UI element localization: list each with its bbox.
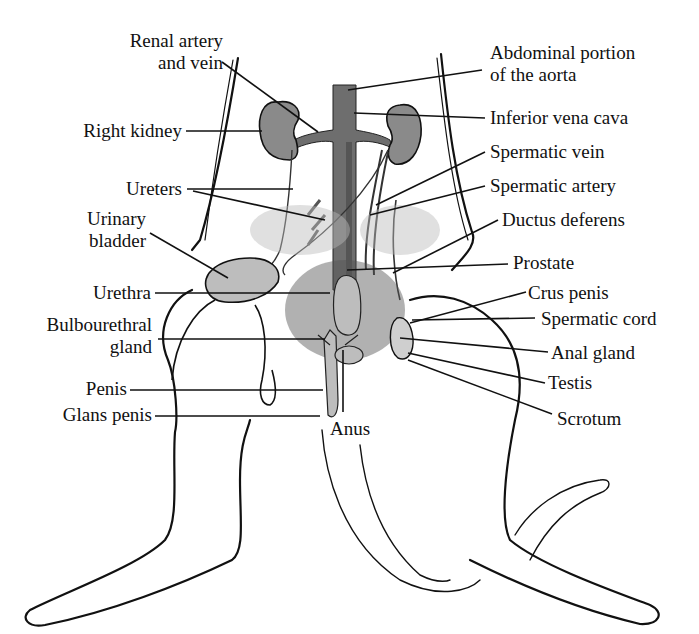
label-line: Bulbourethral — [46, 314, 152, 336]
label-glans-penis: Glans penis — [63, 404, 152, 426]
label-line: Right kidney — [83, 120, 182, 142]
label-ureters: Ureters — [126, 178, 182, 200]
label-inferior-vena-cava: Inferior vena cava — [490, 107, 628, 129]
label-line: Inferior vena cava — [490, 107, 628, 129]
label-abdominal-aorta: Abdominal portion of the aorta — [490, 42, 635, 86]
label-line: Renal artery — [130, 30, 223, 52]
label-anus: Anus — [330, 418, 370, 440]
label-line: and vein — [130, 52, 223, 74]
label-line: of the aorta — [490, 64, 635, 86]
label-spermatic-artery: Spermatic artery — [490, 175, 616, 197]
label-bulbourethral-gland: Bulbourethral gland — [46, 314, 152, 358]
label-prostate: Prostate — [513, 252, 574, 274]
label-renal-artery-vein: Renal artery and vein — [130, 30, 223, 74]
label-line: Penis — [86, 378, 127, 400]
label-urinary-bladder: Urinary bladder — [87, 208, 146, 252]
label-line: Anal gland — [551, 342, 635, 364]
anus-shape — [335, 346, 363, 364]
label-line: Ductus deferens — [502, 209, 625, 231]
label-crus-penis: Crus penis — [528, 282, 609, 304]
anatomy-diagram: Renal artery and vein Right kidney Urete… — [0, 0, 699, 634]
label-line: Spermatic cord — [541, 308, 657, 330]
label-spermatic-cord: Spermatic cord — [541, 308, 657, 330]
label-line: Ureters — [126, 178, 182, 200]
urinary-bladder — [206, 258, 279, 302]
label-scrotum: Scrotum — [557, 408, 621, 430]
label-line: Prostate — [513, 252, 574, 274]
label-testis: Testis — [548, 372, 592, 394]
label-spermatic-vein: Spermatic vein — [490, 141, 605, 163]
label-line: Scrotum — [557, 408, 621, 430]
label-anal-gland: Anal gland — [551, 342, 635, 364]
label-ductus-deferens: Ductus deferens — [502, 209, 625, 231]
label-right-kidney: Right kidney — [83, 120, 182, 142]
label-line: gland — [46, 336, 152, 358]
left-kidney — [387, 105, 421, 165]
label-line: Testis — [548, 372, 592, 394]
label-line: Urinary — [87, 208, 146, 230]
label-line: Glans penis — [63, 404, 152, 426]
label-urethra: Urethra — [93, 282, 151, 304]
right-kidney — [260, 102, 299, 160]
label-line: Crus penis — [528, 282, 609, 304]
label-penis: Penis — [86, 378, 127, 400]
label-line: Abdominal portion — [490, 42, 635, 64]
label-line: Spermatic vein — [490, 141, 605, 163]
label-line: Spermatic artery — [490, 175, 616, 197]
label-line: Urethra — [93, 282, 151, 304]
label-line: Anus — [330, 418, 370, 440]
label-line: bladder — [87, 230, 146, 252]
